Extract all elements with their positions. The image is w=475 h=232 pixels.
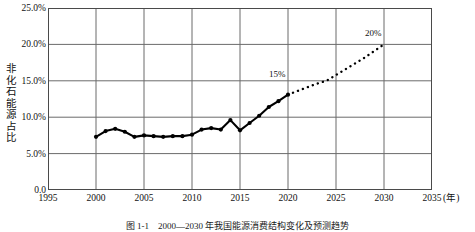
- data-point-marker: [219, 127, 223, 131]
- data-point-marker: [161, 135, 165, 139]
- data-point-marker: [200, 127, 204, 131]
- data-point-marker: [94, 135, 98, 139]
- data-point-marker: [276, 99, 280, 103]
- data-label-15pct: 15%: [269, 69, 286, 79]
- data-point-marker: [228, 118, 232, 122]
- data-point-marker: [190, 133, 194, 137]
- x-tick-label: 2005: [122, 193, 166, 204]
- figure-container: 非化石能源占比 0.05.0%10.0%15.0%20.0%25.0% 1995…: [0, 0, 475, 232]
- x-axis-unit-label: (年): [443, 193, 459, 204]
- data-point-marker: [257, 114, 261, 118]
- data-point-marker: [171, 134, 175, 138]
- data-point-marker: [142, 133, 146, 137]
- data-point-marker: [209, 126, 213, 130]
- data-point-marker: [152, 134, 156, 138]
- x-tick-label: 2000: [74, 193, 118, 204]
- x-tick-label: 2030: [362, 193, 406, 204]
- x-tick-label: 1995: [26, 193, 70, 204]
- x-tick-label: 2010: [170, 193, 214, 204]
- data-point-marker: [267, 105, 271, 109]
- x-tick-label: 2015: [218, 193, 262, 204]
- data-label-20pct: 20%: [365, 28, 382, 38]
- x-tick-label: 2020: [266, 193, 310, 204]
- figure-caption: 图 1-1 2000—2030 年我国能源消费结构变化及预测趋势: [0, 221, 475, 232]
- data-point-marker: [104, 129, 108, 133]
- x-tick-label: 2025: [314, 193, 358, 204]
- data-point-marker: [248, 121, 252, 125]
- data-point-marker: [180, 134, 184, 138]
- data-point-marker: [113, 127, 117, 131]
- data-point-marker: [132, 135, 136, 139]
- data-point-marker: [238, 128, 242, 132]
- data-point-marker: [123, 130, 127, 134]
